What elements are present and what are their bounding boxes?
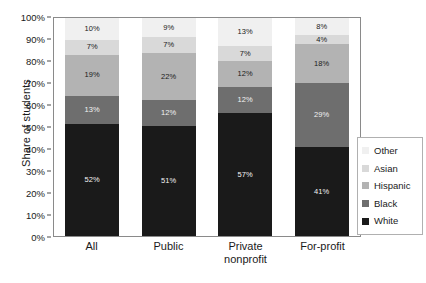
bar-group: 8%4%18%29%41% [295, 18, 349, 236]
bar-segment-value-label: 7% [240, 50, 251, 58]
y-tick-label: 50% [26, 122, 45, 133]
bar-segment[interactable]: 13% [218, 18, 272, 46]
x-tick-label-line: Public [130, 240, 207, 253]
y-tick-label: 80% [26, 56, 45, 67]
legend-label: Asian [374, 164, 398, 174]
bar-stack[interactable]: 10%7%19%13%52% [65, 18, 119, 236]
bar-segment[interactable]: 29% [295, 83, 349, 146]
bar-segment-value-label: 13% [85, 106, 100, 114]
y-tick-mark [47, 171, 51, 172]
legend-item[interactable]: White [362, 212, 419, 230]
legend-label: White [374, 216, 398, 226]
x-tick-label: Privatenonprofit [207, 240, 284, 266]
x-axis-tick-labels: AllPublicPrivatenonprofitFor-profit [53, 240, 361, 280]
x-tick-label-line: For-profit [284, 240, 361, 253]
y-tick-label: 40% [26, 144, 45, 155]
legend-swatch-icon [362, 182, 369, 189]
y-tick-mark [47, 61, 51, 62]
bar-segment[interactable]: 7% [142, 37, 196, 52]
y-tick-mark [47, 83, 51, 84]
bar-segment[interactable]: 9% [142, 18, 196, 37]
bar-segment-value-label: 22% [161, 73, 176, 81]
y-tick-label: 90% [26, 34, 45, 45]
bar-segment[interactable]: 4% [295, 35, 349, 44]
y-tick-mark [47, 105, 51, 106]
bar-segment-value-label: 12% [161, 109, 176, 117]
plot-area: 10%7%19%13%52%9%7%22%12%51%13%7%12%12%57… [53, 17, 361, 237]
y-tick-label: 100% [21, 12, 45, 23]
bar-segment[interactable]: 12% [218, 61, 272, 87]
bar-segment[interactable]: 8% [295, 18, 349, 35]
bar-segment-value-label: 51% [161, 177, 176, 185]
y-tick-mark [47, 237, 51, 238]
y-tick-mark [47, 127, 51, 128]
bar-segment[interactable]: 7% [65, 40, 119, 55]
legend-swatch-icon [362, 147, 369, 154]
bar-segment-value-label: 57% [238, 171, 253, 179]
y-tick-mark [47, 39, 51, 40]
bar-segment[interactable]: 52% [65, 124, 119, 236]
bar-segment[interactable]: 19% [65, 55, 119, 96]
y-tick-label: 70% [26, 78, 45, 89]
bar-segment-value-label: 13% [238, 28, 253, 36]
bars-container: 10%7%19%13%52%9%7%22%12%51%13%7%12%12%57… [54, 18, 360, 236]
bar-segment[interactable]: 18% [295, 44, 349, 83]
bar-stack[interactable]: 8%4%18%29%41% [295, 18, 349, 236]
bar-segment-value-label: 10% [85, 25, 100, 33]
x-tick-label: Public [130, 240, 207, 253]
legend-swatch-icon [362, 218, 369, 225]
bar-stack[interactable]: 13%7%12%12%57% [218, 18, 272, 236]
x-tick-label-line: nonprofit [207, 253, 284, 266]
y-tick-mark [47, 149, 51, 150]
bar-segment[interactable]: 12% [142, 100, 196, 126]
bar-segment[interactable]: 57% [218, 113, 272, 236]
bar-segment-value-label: 52% [85, 176, 100, 184]
bar-segment[interactable]: 12% [218, 87, 272, 113]
legend-item[interactable]: Black [362, 195, 419, 213]
legend-label: Black [374, 199, 397, 209]
bar-segment-value-label: 19% [85, 71, 100, 79]
bar-segment[interactable]: 51% [142, 126, 196, 236]
x-tick-label-line: Private [207, 240, 284, 253]
bar-group: 10%7%19%13%52% [65, 18, 119, 236]
legend-item[interactable]: Hispanic [362, 177, 419, 195]
bar-segment-value-label: 7% [87, 43, 98, 51]
bar-segment[interactable]: 41% [295, 147, 349, 236]
bar-segment-value-label: 8% [316, 23, 327, 31]
chart-legend: OtherAsianHispanicBlackWhite [357, 137, 423, 235]
bar-segment[interactable]: 22% [142, 53, 196, 100]
y-tick-label: 20% [26, 188, 45, 199]
legend-label: Hispanic [374, 181, 410, 191]
x-tick-label: For-profit [284, 240, 361, 253]
y-tick-mark [47, 215, 51, 216]
bar-segment-value-label: 12% [238, 70, 253, 78]
y-tick-label: 60% [26, 100, 45, 111]
y-tick-mark [47, 193, 51, 194]
stacked-bar-chart: Share of students 100%90%80%70%60%50%40%… [0, 0, 426, 283]
y-tick-label: 10% [26, 210, 45, 221]
bar-segment[interactable]: 10% [65, 18, 119, 40]
bar-group: 13%7%12%12%57% [218, 18, 272, 236]
bar-segment-value-label: 4% [316, 36, 327, 44]
bar-segment-value-label: 29% [314, 111, 329, 119]
legend-swatch-icon [362, 165, 369, 172]
y-tick-label: 30% [26, 166, 45, 177]
legend-label: Other [374, 146, 398, 156]
y-tick-mark [47, 17, 51, 18]
legend-item[interactable]: Asian [362, 160, 419, 178]
bar-segment[interactable]: 7% [218, 46, 272, 61]
legend-item[interactable]: Other [362, 142, 419, 160]
x-tick-label-line: All [53, 240, 130, 253]
bar-segment[interactable]: 13% [65, 96, 119, 124]
bar-segment-value-label: 9% [163, 24, 174, 32]
bar-segment-value-label: 7% [163, 41, 174, 49]
y-axis-tick-labels: 100%90%80%70%60%50%40%30%20%10%0% [8, 17, 50, 237]
bar-group: 9%7%22%12%51% [142, 18, 196, 236]
y-tick-label: 0% [31, 232, 45, 243]
bar-segment-value-label: 12% [238, 96, 253, 104]
x-tick-label: All [53, 240, 130, 253]
bar-segment-value-label: 41% [314, 188, 329, 196]
legend-swatch-icon [362, 200, 369, 207]
bar-stack[interactable]: 9%7%22%12%51% [142, 18, 196, 236]
bar-segment-value-label: 18% [314, 60, 329, 68]
